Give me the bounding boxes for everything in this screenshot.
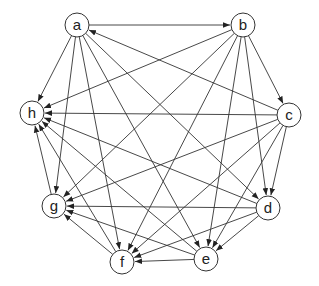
edge-b-to-f	[128, 36, 238, 251]
edge-b-to-d	[245, 37, 267, 195]
edge-c-to-d	[271, 127, 286, 196]
node-label: b	[239, 16, 247, 33]
edge-e-to-h	[42, 121, 197, 251]
edge-e-to-g	[66, 210, 194, 255]
node-h: h	[20, 101, 44, 125]
tournament-graph: abcdefgh	[0, 0, 319, 286]
node-label: h	[28, 104, 36, 121]
edges-group	[35, 25, 286, 262]
node-label: g	[50, 197, 58, 214]
edge-a-to-d	[86, 33, 259, 199]
edge-d-to-g	[67, 206, 256, 208]
edge-b-to-c	[248, 36, 283, 104]
edge-d-to-e	[216, 216, 259, 251]
node-label: a	[73, 16, 82, 33]
node-d: d	[256, 196, 280, 220]
edge-d-to-h	[44, 118, 257, 204]
edge-c-to-f	[132, 123, 280, 253]
edge-a-to-h	[38, 36, 72, 102]
node-label: d	[264, 199, 272, 216]
edge-c-to-h	[45, 113, 277, 115]
node-b: b	[231, 13, 255, 37]
node-g: g	[42, 194, 66, 218]
node-label: e	[202, 250, 210, 267]
node-a: a	[65, 13, 89, 37]
edge-f-to-h	[39, 124, 116, 252]
edge-b-to-h	[44, 30, 232, 108]
node-e: e	[194, 247, 218, 271]
edge-b-to-e	[208, 37, 241, 246]
node-f: f	[110, 250, 134, 274]
edge-g-to-h	[35, 126, 51, 195]
edge-b-to-g	[63, 33, 234, 197]
node-c: c	[277, 103, 301, 127]
edge-e-to-f	[135, 259, 194, 261]
node-label: c	[285, 106, 293, 123]
